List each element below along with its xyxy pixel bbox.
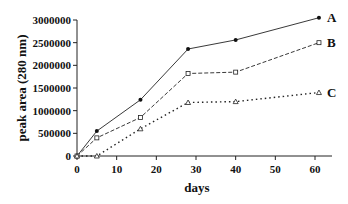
line-chart: 0500000100000015000002000000250000030000… <box>0 0 348 204</box>
y-tick-label: 500000 <box>38 127 72 139</box>
y-axis-label: peak area (280 nm) <box>14 34 29 141</box>
data-point <box>186 47 190 51</box>
y-tick-label: 0 <box>66 150 72 162</box>
y-tick-label: 1000000 <box>33 105 72 117</box>
x-ticks: 0102030405060 <box>74 156 321 175</box>
x-tick-label: 10 <box>111 163 123 175</box>
data-point <box>234 38 238 42</box>
x-axis-label: days <box>184 180 209 195</box>
axes <box>77 20 332 156</box>
series-label-B: B <box>327 35 336 50</box>
data-point <box>138 115 142 119</box>
y-tick-label: 1500000 <box>33 82 72 94</box>
x-tick-label: 50 <box>270 163 282 175</box>
data-point <box>317 16 321 20</box>
data-point <box>316 90 321 95</box>
x-tick-label: 0 <box>74 163 80 175</box>
y-tick-label: 3000000 <box>33 14 72 26</box>
data-point <box>317 41 321 45</box>
y-tick-label: 2000000 <box>33 59 72 71</box>
series-line-A <box>77 18 319 156</box>
data-point <box>95 136 99 140</box>
x-tick-label: 60 <box>310 163 322 175</box>
series-label-C: C <box>327 85 336 100</box>
x-tick-label: 20 <box>151 163 163 175</box>
series-line-C <box>77 93 319 156</box>
x-tick-label: 40 <box>230 163 242 175</box>
data-point <box>138 98 142 102</box>
series-label-A: A <box>327 10 337 25</box>
x-tick-label: 30 <box>191 163 203 175</box>
series-lines: ABC <box>75 10 337 158</box>
data-point <box>186 71 190 75</box>
data-point <box>95 129 99 133</box>
y-ticks: 0500000100000015000002000000250000030000… <box>33 14 78 162</box>
series-line-B <box>77 43 319 156</box>
y-tick-label: 2500000 <box>33 37 72 49</box>
data-point <box>234 70 238 74</box>
